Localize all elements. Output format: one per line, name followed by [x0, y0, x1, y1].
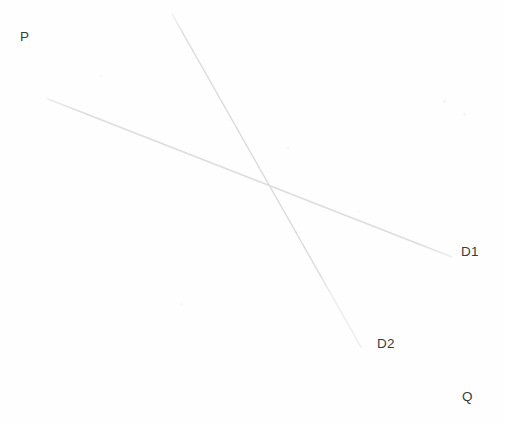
curve-label-d2: D2 — [377, 337, 395, 351]
demand-curve-diagram: P Q D1 D2 — [0, 0, 505, 423]
demand-curve-d1 — [48, 99, 452, 257]
x-axis-label-quantity: Q — [462, 390, 473, 404]
demand-curve-d2 — [172, 14, 361, 347]
plot-area — [0, 0, 505, 423]
curve-label-d1: D1 — [461, 245, 479, 259]
y-axis-label-price: P — [20, 30, 29, 44]
